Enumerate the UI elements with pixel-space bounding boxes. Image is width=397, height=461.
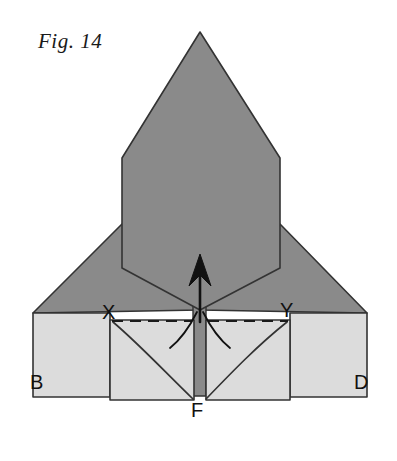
point-label-x: X (102, 302, 115, 322)
figure-root: Fig. 14 B X Y D F (0, 0, 397, 461)
origami-diagram-svg (0, 0, 397, 461)
point-label-b: B (30, 372, 43, 392)
right-flap-shape (206, 320, 290, 400)
left-outer-panel-shape (33, 313, 110, 397)
point-label-y: Y (280, 300, 293, 320)
point-label-d: D (354, 372, 368, 392)
point-label-f: F (191, 400, 203, 420)
